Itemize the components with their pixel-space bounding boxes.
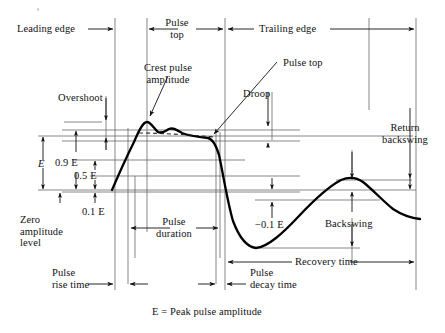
label-amplitude-neg01E: −0.1 E: [255, 219, 284, 231]
annotation-arrows: [43, 29, 414, 284]
label-zero-amplitude-level: Zero amplitude level: [20, 214, 63, 249]
label-amplitude-09E: 0.9 E: [55, 157, 78, 169]
label-return-backswing: Return backswing: [374, 122, 436, 145]
label-pulse-top-callout: Pulse top: [283, 57, 323, 69]
label-recovery-time: Recovery time: [295, 256, 358, 268]
figure-caption: E = Peak pulse amplitude: [152, 306, 262, 318]
label-pulse-rise-time: Pulse rise time: [52, 267, 89, 290]
label-crest-pulse-amplitude: Crest pulse amplitude: [130, 62, 206, 85]
label-trailing-edge: Trailing edge: [259, 23, 316, 35]
label-pulse-top-dimension: Pulse top: [158, 17, 196, 40]
label-leading-edge: Leading edge: [17, 23, 75, 35]
label-backswing: Backswing: [325, 218, 373, 230]
label-pulse-decay-time: Pulse decay time: [250, 267, 297, 290]
label-droop: Droop: [243, 88, 270, 100]
label-amplitude-05E: 0.5 E: [74, 170, 97, 182]
label-amplitude-E: E: [38, 158, 45, 170]
label-overshoot: Overshoot: [58, 92, 103, 104]
ideal-pulse-top-dashed: [139, 133, 214, 137]
vertical-guide-lines: [106, 18, 416, 290]
label-pulse-duration: Pulse duration: [152, 216, 196, 239]
label-amplitude-01E: 0.1 E: [82, 206, 105, 218]
pulse-waveform-figure: Leading edge Pulse top Trailing edge Cre…: [0, 0, 445, 333]
